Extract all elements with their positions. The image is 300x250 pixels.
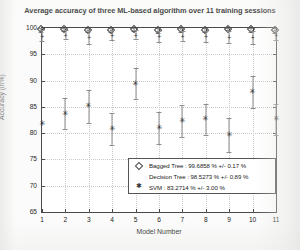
star-marker-icon: ✱ [129,182,149,193]
x-tick-label: 6 [157,216,161,223]
x-tick-label: 1 [40,216,44,223]
y-tick-mark [42,212,45,213]
error-bar-cap [87,44,92,45]
y-tick-mark [273,54,276,55]
error-bar-cap [180,137,185,138]
error-bar-cap [204,31,209,32]
y-tick-label: 95 [15,50,37,57]
x-tick-label: 2 [64,216,68,223]
star-marker-icon: ✳ [202,115,209,123]
error-bar-cap [157,144,162,145]
y-tick-mark [42,54,45,55]
x-tick-label: 11 [273,216,280,223]
legend-label: Decision Tree : 98.5273 % +/- 0.89 % [149,173,248,180]
error-bar-cap [274,135,279,136]
plus-marker-icon: + [181,32,185,39]
y-tick-label: 90 [15,76,37,83]
error-bar-cap [227,31,232,32]
plus-marker-icon: + [64,31,68,38]
error-bar-cap [180,105,185,106]
star-marker-icon: ✳ [273,115,280,123]
legend: Bagged Tree : 99.6858 % +/- 0.17 % Decis… [128,158,276,194]
error-bar-cap [110,113,115,114]
x-tick-mark [206,209,207,212]
plus-marker-icon: + [204,33,208,40]
error-bar-cap [110,145,115,146]
y-tick-mark [273,81,276,82]
y-tick-mark [42,133,45,134]
error-bar-cap [86,123,91,124]
error-bar-cap [157,42,162,43]
star-marker-icon: ✳ [109,125,116,133]
error-bar-cap [227,118,232,119]
x-tick-mark [136,209,137,212]
legend-item-svm: ✱ SVM : 83.2714 % +/- 3.00 % [129,182,275,193]
plus-marker-icon: + [157,33,161,40]
plus-marker-icon: + [110,32,114,39]
diamond-marker-icon [129,160,149,171]
error-bar-cap [110,40,115,41]
star-marker-icon: ✳ [85,102,92,110]
x-tick-label: 4 [110,216,114,223]
error-bar-cap [227,152,232,153]
figure-canvas: Average accuracy of three ML-based algor… [0,0,300,250]
legend-item-bagged-tree: Bagged Tree : 99.6858 % +/- 0.17 % [129,160,275,171]
y-axis-label: Accuracy (in%) [0,74,5,120]
y-tick-mark [42,107,45,108]
y-tick-label: 80 [15,129,37,136]
error-bar-cap [203,135,208,136]
star-marker-icon: ✳ [156,124,163,132]
star-marker-icon: ✳ [226,131,233,139]
error-bar-cap [63,98,68,99]
error-bar-cap [274,40,279,41]
legend-item-decision-tree: Decision Tree : 98.5273 % +/- 0.89 % [129,171,275,182]
y-tick-mark [42,159,45,160]
y-tick-label: 85 [15,102,37,109]
x-tick-mark [182,209,183,212]
error-bar-cap [63,129,68,130]
plus-marker-icon [129,171,149,182]
error-bar-cap [250,108,255,109]
error-bar-cap [204,42,209,43]
star-marker-icon: ✳ [249,88,256,96]
x-tick-label: 5 [134,216,138,223]
error-bar-cap [40,41,45,42]
error-bar-cap [250,76,255,77]
error-bar-cap [157,112,162,113]
x-tick-mark [89,209,90,212]
x-tick-label: 8 [204,216,208,223]
x-tick-mark [276,209,277,212]
error-bar-cap [133,99,138,100]
error-bar-cap [227,43,232,44]
error-bar-cap [63,39,68,40]
plus-marker-icon: + [134,31,138,38]
error-bar-cap [203,104,208,105]
x-axis-label: Model Number [41,228,277,235]
y-tick-mark [42,186,45,187]
plus-marker-icon: + [274,32,278,39]
x-tick-label: 9 [227,216,231,223]
x-tick-mark [253,209,254,212]
plus-marker-icon: + [251,34,255,41]
error-bar-cap [250,44,255,45]
y-tick-label: 100 [15,24,37,31]
x-tick-mark [112,209,113,212]
error-bar-cap [180,41,185,42]
plus-marker-icon: + [40,32,44,39]
x-tick-label: 3 [87,216,91,223]
x-tick-mark [42,209,43,212]
error-bar-cap [87,30,92,31]
star-marker-icon: ✳ [179,117,186,125]
error-bar-cap [133,39,138,40]
x-tick-mark [229,209,230,212]
y-tick-label: 65 [15,208,37,215]
x-tick-mark [65,209,66,212]
y-tick-label: 75 [15,155,37,162]
plus-marker-icon: + [87,33,91,40]
plus-marker-icon: + [227,33,231,40]
star-marker-icon: ✳ [39,120,46,128]
error-bar-cap [274,104,279,105]
legend-label: SVM : 83.2714 % +/- 3.00 % [149,184,225,191]
error-bar-cap [157,31,162,32]
error-bar-cap [86,90,91,91]
